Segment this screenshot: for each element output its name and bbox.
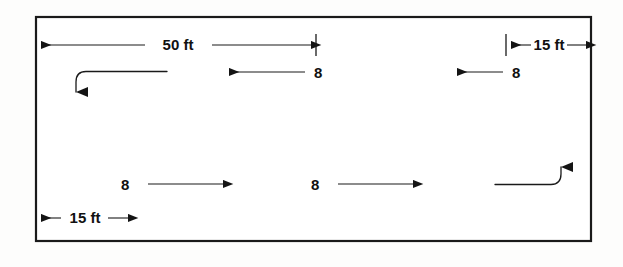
flow-arrow-lower-right-label: 8 xyxy=(311,176,319,193)
dimension-50ft-label: 50 ft xyxy=(163,36,194,53)
diagram-canvas: 50 ft 15 ft 15 ft 8 8 8 xyxy=(0,0,623,267)
flow-arrow-upper-left-label: 8 xyxy=(314,64,322,81)
dimension-15ft-left-label: 15 ft xyxy=(70,209,101,226)
dimension-diagram: 50 ft 15 ft 15 ft 8 8 8 xyxy=(0,0,623,267)
roadway-boundary-rectangle xyxy=(36,17,591,241)
dimension-15ft-right-label: 15 ft xyxy=(534,36,565,53)
flow-arrow-lower-left-label: 8 xyxy=(121,176,129,193)
flow-arrow-upper-right-label: 8 xyxy=(512,64,520,81)
